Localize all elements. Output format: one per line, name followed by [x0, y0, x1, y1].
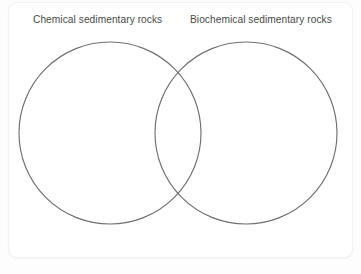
venn-circle-left[interactable]	[19, 42, 201, 224]
venn-circle-right[interactable]	[155, 42, 337, 224]
venn-diagram-page: Chemical sedimentary rocks Biochemical s…	[0, 0, 361, 274]
venn-circles	[0, 0, 361, 274]
